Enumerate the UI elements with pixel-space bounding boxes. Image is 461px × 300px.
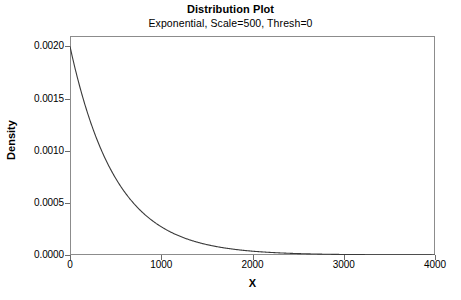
x-tick-label: 3000: [314, 259, 374, 270]
x-tick-mark: [344, 255, 345, 260]
y-tick-mark: [65, 99, 70, 100]
x-tick-mark: [161, 255, 162, 260]
density-curve: [70, 46, 435, 255]
x-tick-label: 1000: [131, 259, 191, 270]
x-tick-mark: [70, 255, 71, 260]
x-tick-label: 4000: [405, 259, 461, 270]
distribution-plot-figure: Distribution Plot Exponential, Scale=500…: [0, 0, 461, 300]
y-tick-label: 0.0005: [12, 198, 64, 208]
y-tick-mark: [65, 151, 70, 152]
x-tick-label: 2000: [223, 259, 283, 270]
title-block: Distribution Plot Exponential, Scale=500…: [0, 3, 461, 30]
chart-subtitle: Exponential, Scale=500, Thresh=0: [0, 16, 461, 30]
chart-title: Distribution Plot: [0, 3, 461, 16]
y-tick-mark: [65, 46, 70, 47]
x-tick-mark: [253, 255, 254, 260]
x-tick-mark: [435, 255, 436, 260]
y-tick-label: 0.0020: [12, 41, 64, 51]
x-axis-title: X: [70, 277, 435, 289]
y-tick-label: 0.0010: [12, 146, 64, 156]
y-tick-label: 0.0015: [12, 94, 64, 104]
y-axis-title: Density: [5, 110, 17, 170]
plot-area: [70, 36, 435, 255]
y-tick-mark: [65, 203, 70, 204]
x-tick-label: 0: [40, 259, 100, 270]
